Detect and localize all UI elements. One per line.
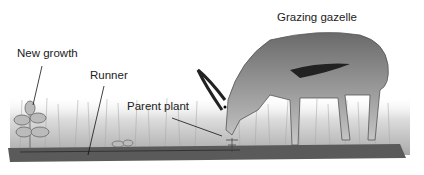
label-gazelle: Grazing gazelle bbox=[277, 11, 357, 23]
label-runner: Runner bbox=[90, 69, 128, 81]
label-new-growth: New growth bbox=[17, 47, 78, 59]
illustration bbox=[0, 0, 424, 175]
label-parent-plant: Parent plant bbox=[127, 100, 189, 112]
